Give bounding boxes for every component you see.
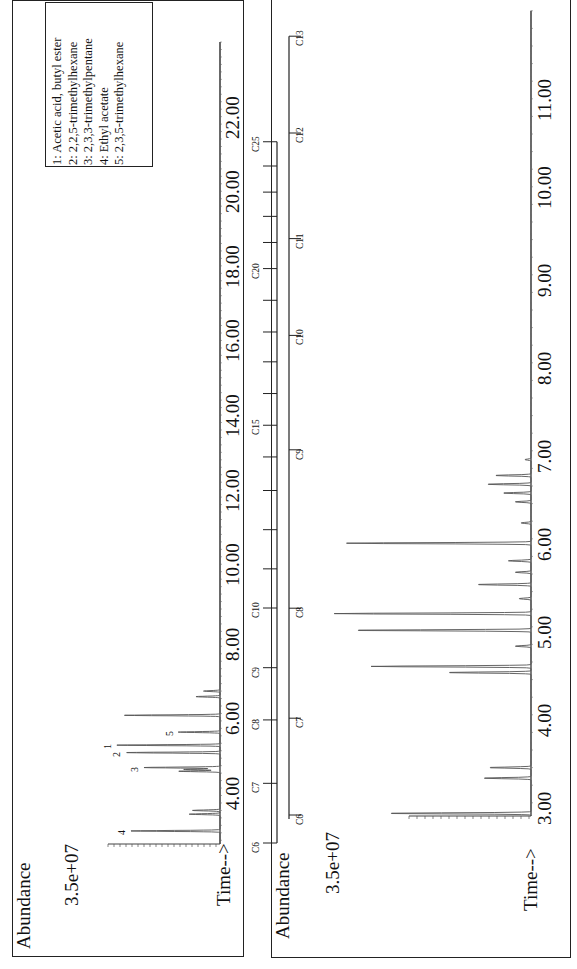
carbon-label-C13: C13 [295, 30, 305, 46]
time-tick-label: 10.00 [534, 166, 556, 209]
time-tick-label: 3.00 [534, 792, 556, 825]
legend-item: 2: 2,2,5-trimethylhexane [66, 7, 82, 165]
carbon-label-C10: C10 [251, 602, 261, 618]
carbon-label-C8: C8 [251, 719, 261, 730]
peak-label-5: 5 [164, 731, 175, 736]
time-tick-label: 8.00 [222, 628, 244, 661]
time-tick-label: 4.00 [222, 777, 244, 810]
time-tick-label: 12.00 [222, 469, 244, 512]
time-tick-label: 4.00 [534, 704, 556, 737]
peak-label-4: 4 [116, 830, 127, 835]
time-tick-label: 16.00 [222, 320, 244, 363]
chromatogram-trace [334, 11, 531, 816]
time-tick-label: 7.00 [534, 440, 556, 473]
time-tick-label: 9.00 [534, 264, 556, 297]
peak-label-2: 2 [111, 752, 122, 757]
x-axis-label: Time--> [520, 848, 542, 911]
time-tick-label: 14.00 [222, 394, 244, 437]
time-tick-label: 8.00 [534, 352, 556, 385]
time-tick-label: 11.00 [534, 79, 556, 121]
peak-label-1: 1 [102, 744, 113, 749]
peak-legend: 1: Acetic acid, butyl ester 2: 2,2,5-tri… [45, 2, 153, 167]
chromatogram-plot-expanded [272, 0, 572, 959]
time-tick-label: 20.00 [222, 171, 244, 214]
legend-item: 3: 2,3,3-trimethylpentane [81, 7, 97, 165]
legend-item: 5: 2,3,5-trimethylhexane [112, 7, 128, 165]
chromatogram-panel-full: 1: Acetic acid, butyl ester 2: 2,2,5-tri… [12, 0, 244, 957]
carbon-label-C15: C15 [251, 419, 261, 435]
legend-item: 1: Acetic acid, butyl ester [50, 7, 66, 165]
carbon-label-C7: C7 [295, 717, 305, 728]
carbon-label-C8: C8 [295, 607, 305, 618]
y-axis-label: Abundance [272, 852, 294, 939]
carbon-label-C6: C6 [251, 842, 261, 853]
time-tick-label: 6.00 [534, 528, 556, 561]
carbon-label-C25: C25 [251, 136, 261, 152]
carbon-label-C12: C12 [295, 127, 305, 143]
y-axis-label: Abundance [13, 862, 35, 949]
carbon-label-C7: C7 [251, 782, 261, 793]
y-tick-label: 3.5e+07 [322, 832, 344, 894]
y-tick-label: 3.5e+07 [61, 844, 83, 906]
carbon-label-C6: C6 [295, 814, 305, 825]
time-tick-label: 10.00 [222, 544, 244, 587]
time-tick-label: 5.00 [534, 616, 556, 649]
carbon-label-C9: C9 [251, 667, 261, 678]
carbon-label-C20: C20 [251, 263, 261, 279]
time-tick-label: 6.00 [222, 702, 244, 735]
chromatogram-panel-expanded: Abundance 3.5e+07 Time--> 3.004.005.006.… [271, 0, 571, 958]
time-tick-label: 22.00 [222, 96, 244, 139]
legend-item: 4: Ethyl acetate [97, 7, 113, 165]
time-tick-label: 18.00 [222, 245, 244, 288]
peak-label-3: 3 [129, 767, 140, 772]
carbon-label-C9: C9 [295, 449, 305, 460]
carbon-label-C11: C11 [295, 233, 305, 248]
x-axis-label: Time--> [213, 843, 235, 906]
carbon-label-C10: C10 [295, 330, 305, 346]
